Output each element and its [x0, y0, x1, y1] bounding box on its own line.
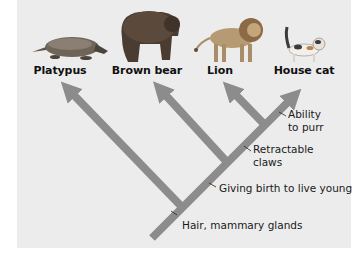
taxon-label-lion: Lion: [207, 64, 233, 77]
brown-bear-icon: [121, 11, 180, 62]
platypus-icon: [32, 37, 108, 60]
trait-text-line2: claws: [253, 156, 314, 169]
trait-label-retractable-claws: Retractable claws: [253, 143, 314, 169]
branch-lion: [230, 89, 264, 124]
trait-text: Hair, mammary glands: [182, 219, 302, 231]
trait-text-line2: to purr: [288, 121, 324, 134]
trait-text: Giving birth to live young: [219, 182, 352, 194]
trait-label-ability-to-purr: Ability to purr: [288, 108, 324, 134]
house-cat-icon: [286, 27, 325, 62]
trait-label-live-birth: Giving birth to live young: [219, 182, 352, 195]
taxon-label-house-cat: House cat: [274, 64, 335, 77]
trait-text-line1: Retractable: [253, 143, 314, 156]
taxon-label-platypus: Platypus: [33, 64, 86, 77]
branch-platypus: [68, 89, 181, 206]
lion-icon: [194, 18, 263, 62]
taxon-label-brown-bear: Brown bear: [112, 64, 182, 77]
trait-text-line1: Ability: [288, 108, 324, 121]
trait-label-hair-mammary-glands: Hair, mammary glands: [182, 219, 302, 232]
branch-brown-bear: [160, 89, 226, 161]
